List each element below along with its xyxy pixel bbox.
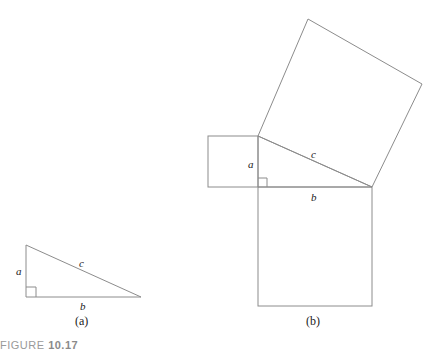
- right-angle-marker-b: [258, 178, 267, 187]
- label-b-panel-a: b: [80, 300, 86, 312]
- label-c-panel-b: c: [311, 148, 316, 160]
- square-b: [258, 187, 372, 306]
- label-a-panel-b: a: [248, 158, 254, 170]
- triangle-a: [26, 245, 141, 297]
- pythagorean-diagram: a c b a c b (a) (b): [0, 0, 434, 355]
- right-angle-marker-a: [26, 287, 36, 297]
- triangle-b: [258, 136, 372, 187]
- caption-a: (a): [75, 314, 88, 328]
- label-a-panel-a: a: [16, 265, 22, 277]
- square-c: [258, 19, 422, 187]
- figure-word: FIGURE: [0, 339, 45, 351]
- label-b-panel-b: b: [311, 191, 317, 203]
- figure-label: FIGURE 10.17: [0, 339, 78, 351]
- label-c-panel-a: c: [79, 257, 84, 269]
- figure-number: 10.17: [48, 339, 78, 351]
- caption-b: (b): [306, 314, 320, 328]
